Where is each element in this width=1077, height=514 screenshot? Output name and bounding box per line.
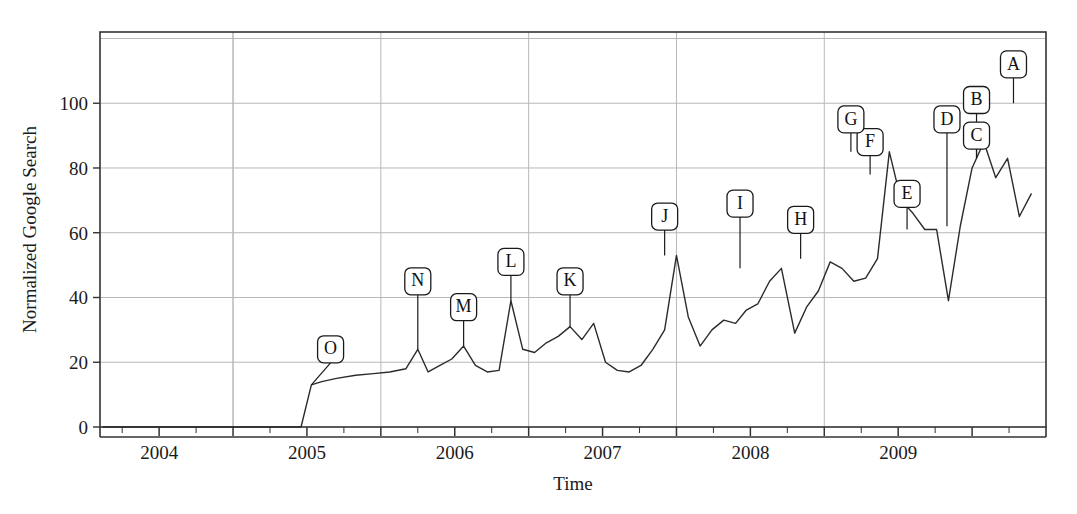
x-tick-label: 2004: [140, 442, 179, 463]
y-axis-tick-labels: 020406080100: [60, 93, 89, 438]
callout-a: A: [1000, 51, 1026, 103]
line-chart: 020406080100 200420052006200720082009 AB…: [0, 0, 1077, 514]
x-tick-label: 2009: [879, 442, 917, 463]
callout-c: C: [964, 122, 990, 158]
x-tick-label: 2007: [584, 442, 622, 463]
y-axis-title: Normalized Google Search: [19, 126, 40, 333]
callout-l: L: [498, 248, 524, 300]
callout-i: I: [727, 190, 753, 268]
callout-d: D: [934, 106, 960, 226]
callout-label: M: [456, 296, 472, 316]
callout-label: J: [661, 206, 668, 226]
y-tick-label: 40: [69, 287, 88, 308]
y-tick-label: 80: [69, 158, 88, 179]
gridlines: [100, 32, 1046, 427]
callout-label: C: [971, 125, 983, 145]
callout-h: H: [788, 206, 814, 258]
annotation-callouts: ABCDEFGHIJKLMNO: [311, 51, 1026, 385]
callout-label: D: [940, 109, 953, 129]
chart-figure: 020406080100 200420052006200720082009 AB…: [0, 0, 1077, 514]
y-tick-label: 20: [69, 352, 88, 373]
y-tick-label: 100: [60, 93, 89, 114]
x-axis-title: Time: [553, 473, 592, 494]
callout-label: N: [411, 270, 424, 290]
callout-label: E: [902, 183, 913, 203]
callout-n: N: [405, 268, 431, 349]
callout-label: I: [737, 193, 743, 213]
callout-label: K: [564, 270, 577, 290]
callout-label: H: [794, 209, 807, 229]
plot-axes: [100, 32, 1046, 437]
callout-label: B: [971, 89, 983, 109]
callout-j: J: [652, 203, 678, 255]
x-tick-label: 2006: [436, 442, 474, 463]
y-tick-label: 0: [79, 417, 89, 438]
x-tick-label: 2008: [731, 442, 769, 463]
callout-label: G: [844, 109, 857, 129]
plot-border: [100, 32, 1046, 427]
y-tick-label: 60: [69, 223, 88, 244]
callout-label: A: [1007, 54, 1020, 74]
callout-label: F: [865, 131, 875, 151]
x-axis-tick-labels: 200420052006200720082009: [140, 442, 917, 463]
callout-label: O: [324, 338, 337, 358]
callout-m: M: [451, 294, 477, 346]
callout-label: L: [505, 251, 516, 271]
callout-e: E: [894, 180, 920, 229]
x-tick-label: 2005: [288, 442, 326, 463]
